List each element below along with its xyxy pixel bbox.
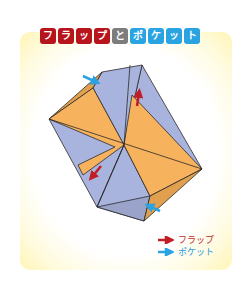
legend-item-flap: フラップ	[158, 234, 214, 246]
legend-label-pocket: ポケット	[178, 246, 214, 258]
legend-item-pocket: ポケット	[158, 246, 214, 258]
legend: フラップ ポケット	[158, 234, 214, 258]
legend-label-flap: フラップ	[178, 234, 214, 246]
blue-arrow-icon	[158, 248, 174, 256]
red-arrow-icon	[158, 236, 174, 244]
